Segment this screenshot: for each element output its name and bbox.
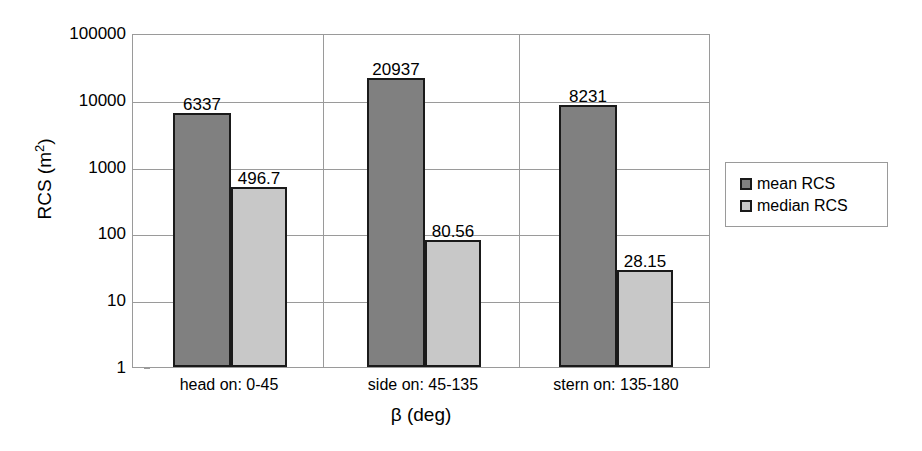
bar-mean-stern-on bbox=[559, 105, 617, 367]
legend-swatch-icon-median bbox=[740, 200, 752, 212]
x-tick-label-stern-on: stern on: 135-180 bbox=[553, 376, 678, 394]
legend-label-mean: mean RCS bbox=[757, 176, 835, 192]
legend-entry-median-rcs: median RCS bbox=[740, 195, 877, 216]
rcs-bar-chart: 100000 10000 1000 100 10 1 RCS (m2) 6337… bbox=[0, 0, 922, 451]
legend-swatch-icon-mean bbox=[740, 178, 752, 190]
y-axis-title-superscript: 2 bbox=[32, 145, 47, 152]
bar-mean-head-on bbox=[173, 113, 231, 367]
bar-median-stern-on bbox=[617, 270, 673, 367]
category-separator-2 bbox=[519, 35, 520, 367]
x-axis-title: β (deg) bbox=[132, 404, 710, 426]
y-tick-label-10: 10 bbox=[26, 292, 126, 309]
y-axis-title: RCS (m2) bbox=[34, 79, 56, 279]
y-tick-label-1: 1 bbox=[26, 359, 126, 376]
data-label-median-stern-on: 28.15 bbox=[624, 253, 667, 270]
data-label-mean-stern-on: 8231 bbox=[569, 88, 607, 105]
y-axis-title-close: ) bbox=[34, 138, 55, 144]
data-label-mean-head-on: 6337 bbox=[183, 96, 221, 113]
bar-median-side-on bbox=[425, 240, 481, 367]
bar-median-head-on bbox=[231, 187, 287, 367]
legend: mean RCS median RCS bbox=[725, 162, 888, 227]
bar-mean-side-on bbox=[367, 78, 425, 367]
y-tick-mark bbox=[144, 368, 150, 369]
y-axis-title-text: RCS (m bbox=[34, 152, 55, 220]
data-label-mean-side-on: 20937 bbox=[372, 61, 419, 78]
legend-entry-mean-rcs: mean RCS bbox=[740, 173, 877, 194]
plot-area: 6337 496.7 20937 80.56 8231 28.15 bbox=[132, 34, 710, 368]
category-separator-1 bbox=[323, 35, 324, 367]
x-tick-label-side-on: side on: 45-135 bbox=[368, 376, 478, 394]
x-tick-label-head-on: head on: 0-45 bbox=[180, 376, 279, 394]
data-label-median-side-on: 80.56 bbox=[432, 223, 475, 240]
data-label-median-head-on: 496.7 bbox=[238, 170, 281, 187]
y-tick-label-100000: 100000 bbox=[26, 25, 126, 42]
legend-label-median: median RCS bbox=[757, 198, 848, 214]
